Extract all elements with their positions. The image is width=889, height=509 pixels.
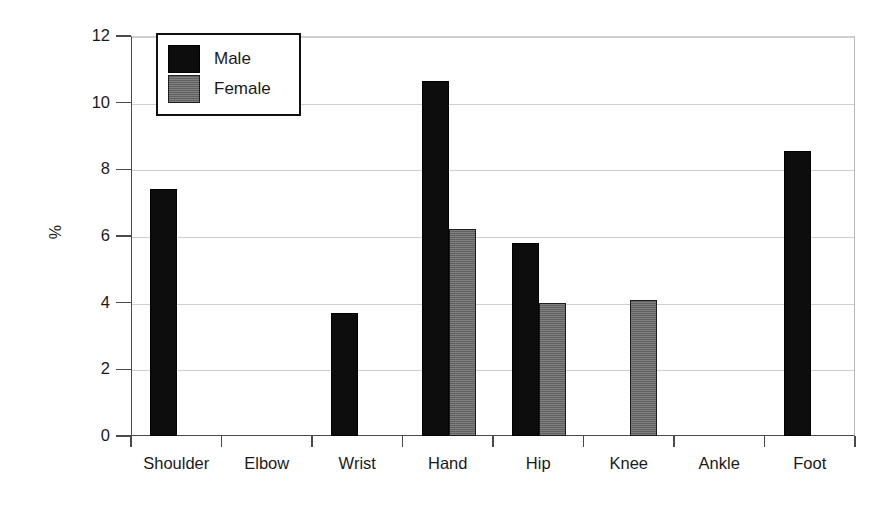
x-axis-tick-label: Ankle: [674, 455, 765, 472]
x-axis-tick: [311, 436, 313, 447]
x-axis-tick-label: Shoulder: [131, 455, 222, 472]
y-axis-tick-label: 6: [60, 227, 110, 244]
x-axis-tick: [673, 436, 675, 447]
bar-knee-female: [630, 300, 657, 436]
gridline: [132, 170, 854, 171]
x-axis-tick-label: Elbow: [222, 455, 313, 472]
y-axis-tick-label: 2: [60, 360, 110, 377]
bar-hand-female: [449, 229, 476, 436]
legend-swatch-female: [168, 75, 200, 103]
y-axis-tick: [116, 35, 131, 37]
x-axis-tick-label: Wrist: [312, 455, 403, 472]
legend-item-male: Male: [168, 43, 251, 74]
x-axis-tick: [130, 436, 132, 447]
bar-foot-male: [784, 151, 811, 436]
legend-label-female: Female: [214, 80, 271, 97]
gridline: [132, 370, 854, 371]
bar-shoulder-male: [150, 189, 177, 436]
x-axis-tick-label: Foot: [765, 455, 856, 472]
y-axis-tick: [116, 235, 131, 237]
y-axis-tick-label: 10: [60, 94, 110, 111]
x-axis-tick: [764, 436, 766, 447]
bar-chart-figure: % 024681012 ShoulderElbowWristHandHipKne…: [0, 0, 889, 509]
bar-hand-male: [422, 81, 449, 436]
bar-hip-female: [539, 303, 566, 436]
chart-legend: Male Female: [156, 33, 301, 116]
x-axis-tick: [854, 436, 856, 447]
legend-item-female: Female: [168, 73, 271, 104]
y-axis-tick-label: 12: [60, 27, 110, 44]
x-axis-tick-label: Hand: [403, 455, 494, 472]
y-axis-tick: [116, 435, 131, 437]
legend-label-male: Male: [214, 50, 251, 67]
gridline: [132, 304, 854, 305]
bar-hip-male: [512, 243, 539, 436]
x-axis-tick-label: Hip: [493, 455, 584, 472]
x-axis-tick: [402, 436, 404, 447]
y-axis-tick: [116, 369, 131, 371]
y-axis-tick-label: 8: [60, 160, 110, 177]
y-axis-tick-label: 0: [60, 427, 110, 444]
y-axis-tick: [116, 102, 131, 104]
y-axis-tick: [116, 169, 131, 171]
y-axis-tick: [116, 302, 131, 304]
legend-swatch-male: [168, 45, 200, 73]
x-axis-tick: [221, 436, 223, 447]
x-axis-tick: [492, 436, 494, 447]
x-axis-tick-label: Knee: [584, 455, 675, 472]
x-axis-tick: [583, 436, 585, 447]
y-axis-tick-label: 4: [60, 294, 110, 311]
bar-wrist-male: [331, 313, 358, 436]
gridline: [132, 237, 854, 238]
